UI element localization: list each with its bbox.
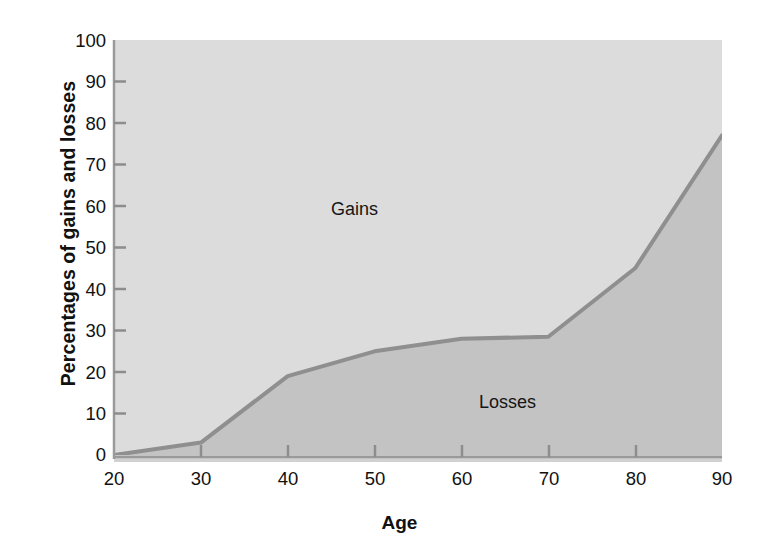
- x-axis-tick-labels: 20 30 40 50 60 70 80 90: [0, 468, 775, 498]
- x-tick-70: 70: [519, 468, 579, 490]
- chart-container: Percentages of gains and losses 100 90 8…: [0, 0, 775, 553]
- x-tick-30: 30: [171, 468, 231, 490]
- x-tick-40: 40: [258, 468, 318, 490]
- x-tick-80: 80: [606, 468, 666, 490]
- x-tick-20: 20: [84, 468, 144, 490]
- x-tick-90: 90: [692, 468, 752, 490]
- x-tick-50: 50: [345, 468, 405, 490]
- x-tick-60: 60: [432, 468, 492, 490]
- x-axis-title: Age: [0, 512, 775, 534]
- gains-label: Gains: [331, 199, 378, 220]
- x-axis-title-text: Age: [382, 512, 418, 533]
- losses-label: Losses: [479, 392, 536, 413]
